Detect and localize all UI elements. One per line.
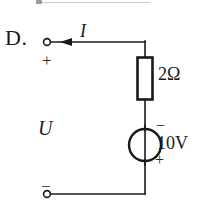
top-terminal-node (44, 39, 51, 46)
resistor-value-label: 2Ω (158, 65, 180, 83)
circuit-diagram-figure: D. I U 2Ω 10V + − − + (0, 0, 208, 204)
circuit-schematic (0, 0, 208, 204)
option-label: D. (5, 27, 27, 49)
port-positive-sign: + (42, 52, 52, 69)
source-value-label: 10V (157, 134, 188, 152)
source-positive-sign: + (155, 152, 164, 168)
port-voltage-label: U (38, 118, 52, 138)
current-label: I (80, 22, 86, 40)
source-negative-sign: − (156, 118, 165, 134)
resistor-body (138, 58, 153, 100)
current-direction-arrow-icon (60, 38, 72, 46)
port-negative-sign: − (41, 178, 51, 195)
